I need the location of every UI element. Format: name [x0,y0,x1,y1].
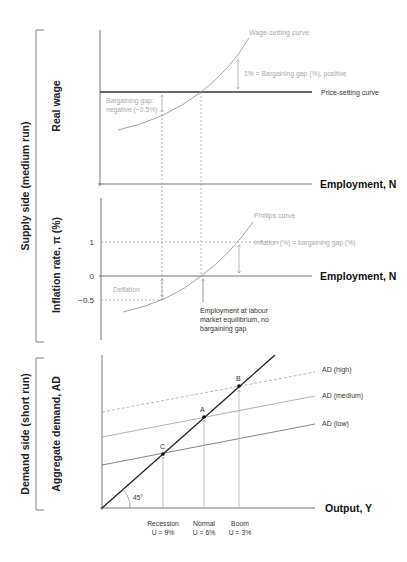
tick-0: 0 [90,272,95,281]
x-label-employment-mid: Employment, N [320,270,396,282]
ad-medium-label: AD (medium) [322,392,363,400]
tick-neg-0-5: −0.5 [78,296,94,305]
ad-low-label: AD (low) [322,420,349,428]
angle-label: 45° [133,494,144,501]
equilibrium-label-3: bargaining gap [200,325,246,333]
inflation-eq-label: Inflation (%) = bargaining gap (%) [254,239,355,247]
panel-aggregate-demand: Aggregate demand, AD Output, Y AD (high)… [50,355,372,536]
normal-u-label: U = 6% [193,529,215,536]
supply-bracket [36,30,44,342]
gap-negative-label-1: Bargaining gap: [106,97,154,105]
point-a-label: A [200,406,205,413]
angle-arc [123,489,130,508]
y-label-ad: Aggregate demand, AD [50,376,62,492]
wage-setting-label: Wage-setting curve [249,29,309,37]
wage-setting-curve [118,38,249,130]
panel-real-wage: Real wage Employment, N Price-setting cu… [50,29,396,302]
gap-negative-label-2: negative (−0.5%) [106,106,158,114]
normal-label: Normal [193,520,215,527]
phillips-curve [123,222,253,312]
panel-inflation: Inflation rate, π (%) Employment, N 1 0 … [50,198,396,340]
deflation-label: Deflation [113,286,140,293]
boom-u-label: U = 3% [229,529,251,536]
supply-side-label: Supply side (medium run) [19,122,31,251]
point-b-label: B [236,375,241,382]
y-label-real-wage: Real wage [50,80,62,132]
x-label-output: Output, Y [325,502,372,514]
demand-bracket [36,358,44,510]
diagram-canvas: Supply side (medium run) Demand side (sh… [0,0,407,562]
equilibrium-label-1: Employment at labour [200,307,269,315]
point-c-label: C [160,443,165,450]
recession-label: Recession [147,520,179,527]
point-c [161,452,165,456]
ad-high-label: AD (high) [322,366,352,374]
ad-high-line [102,372,315,412]
tick-1: 1 [90,238,95,247]
point-a [202,415,206,419]
line-45-degree [102,355,275,508]
demand-side-label: Demand side (short run) [19,373,31,494]
phillips-label: Phillips curve [254,212,295,220]
recession-u-label: U = 9% [152,529,174,536]
boom-label: Boom [231,520,249,527]
gap-positive-label: 1% = Bargaining gap (%), positive [244,70,347,78]
ad-medium-line [102,396,315,437]
price-setting-label: Price-setting curve [321,89,379,97]
equilibrium-label-2: market equilibrium, no [200,316,269,324]
x-label-employment-top: Employment, N [320,178,396,190]
ad-low-line [102,424,315,465]
point-b [237,384,241,388]
y-label-inflation: Inflation rate, π (%) [50,217,62,313]
